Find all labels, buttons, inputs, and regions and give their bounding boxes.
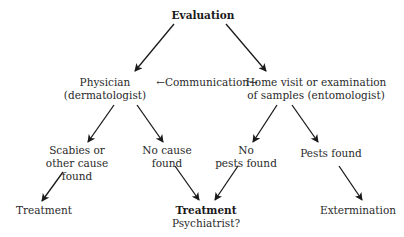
node-no-cause: No cause found — [142, 144, 191, 170]
evaluation-flowchart: Evaluation Physician (dermatologist) ←Co… — [0, 0, 404, 237]
arrow-pests-found-to-extermination — [339, 166, 362, 200]
home-visit-role: of samples (entomologist) — [246, 89, 387, 102]
node-treatment-center: Treatment Psychiatrist? — [172, 204, 240, 230]
physician-label: Physician — [64, 76, 146, 89]
home-visit-label: Home visit or examination — [246, 76, 387, 89]
evaluation-label: Evaluation — [172, 9, 235, 21]
no-pests-line1: No — [215, 144, 277, 157]
node-no-pests: No pests found — [215, 144, 277, 170]
arrow-evaluation-to-physician — [135, 24, 174, 71]
physician-role: (dermatologist) — [64, 89, 146, 102]
scabies-line1: Scabies or — [46, 144, 108, 157]
arrow-physician-to-no-cause — [137, 105, 163, 142]
flowchart-arrows — [0, 0, 404, 237]
communication-label: ←Communication→ — [156, 76, 258, 88]
arrow-no-cause-to-treatment — [175, 166, 199, 200]
node-scabies: Scabies or other cause found — [46, 144, 108, 183]
extermination-label: Extermination — [320, 204, 396, 216]
scabies-line2: other cause — [46, 157, 108, 170]
no-cause-line2: found — [142, 157, 191, 170]
node-home-visit: Home visit or examination of samples (en… — [246, 76, 387, 102]
treatment-label: Treatment — [16, 204, 72, 216]
arrow-home-visit-to-pests-found — [292, 105, 318, 142]
communication-link: ←Communication→ — [156, 76, 258, 89]
treatment-center-label: Treatment — [172, 204, 240, 217]
arrow-no-pests-to-treatment — [215, 166, 238, 200]
node-extermination: Extermination — [320, 204, 396, 217]
no-cause-line1: No cause — [142, 144, 191, 157]
node-physician: Physician (dermatologist) — [64, 76, 146, 102]
node-evaluation: Evaluation — [172, 9, 235, 22]
arrow-evaluation-to-home-visit — [226, 24, 266, 71]
node-treatment-left: Treatment — [16, 204, 72, 217]
arrow-physician-to-scabies — [88, 105, 114, 142]
no-pests-line2: pests found — [215, 157, 277, 170]
scabies-line3: found — [46, 170, 108, 183]
node-pests-found: Pests found — [300, 147, 362, 160]
pests-found-label: Pests found — [300, 147, 362, 159]
psychiatrist-label: Psychiatrist? — [172, 217, 240, 230]
arrow-home-visit-to-no-pests — [253, 105, 277, 142]
